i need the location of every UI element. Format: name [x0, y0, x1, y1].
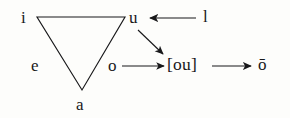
- vowel-triangle-shape: [37, 17, 125, 90]
- vowel-diagram: i u e o a l [ou] ō: [0, 0, 290, 118]
- arrow-u-to-diphthong: [138, 30, 163, 54]
- consonant-label-l: l: [203, 8, 208, 25]
- vowel-label-o: o: [108, 57, 117, 74]
- vowel-label-a: a: [76, 96, 84, 113]
- vowel-label-e: e: [31, 57, 39, 74]
- vowel-label-u: u: [129, 9, 138, 26]
- vowel-label-i: i: [21, 9, 26, 26]
- long-o-label: ō: [258, 56, 267, 73]
- diagram-canvas: [0, 0, 290, 118]
- diphthong-label: [ou]: [167, 56, 197, 74]
